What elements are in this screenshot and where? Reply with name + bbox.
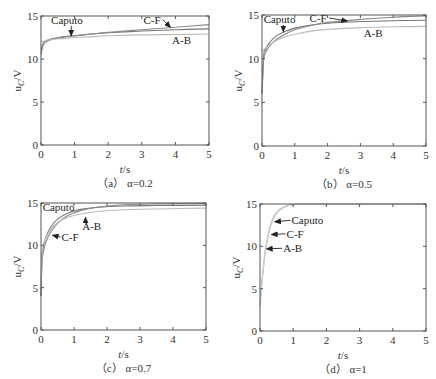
x-tick-label: 5 [206, 148, 212, 160]
x-tick-label: 3 [358, 149, 364, 161]
y-axis-title: uC/V [11, 256, 26, 278]
x-axis-title: t/s [338, 349, 348, 361]
y-tick-label: 15 [27, 10, 39, 22]
annotation-arrow-icon [163, 20, 170, 27]
plot-frame [41, 203, 206, 330]
subplot-caption: （b） α=0.5 [316, 178, 372, 190]
x-tick-label: 3 [357, 334, 363, 346]
x-tick-label: 2 [104, 333, 110, 345]
x-axis-title: t/s [120, 163, 130, 175]
series-ab-line [260, 204, 426, 306]
x-tick-label: 0 [259, 149, 265, 161]
x-tick-label: 1 [71, 333, 77, 345]
y-tick-label: 0 [33, 324, 39, 336]
annotation-caputo: Caputo [43, 201, 75, 213]
annotation-arrow-icon [329, 18, 347, 21]
x-tick-label: 5 [423, 334, 429, 346]
x-tick-label: 2 [325, 149, 331, 161]
series-ab-line [41, 208, 206, 279]
annotation-ab: A-B [364, 27, 383, 39]
x-tick-label: 5 [203, 333, 209, 345]
x-tick-label: 0 [257, 334, 263, 346]
x-tick-label: 1 [72, 148, 78, 160]
y-tick-label: 5 [33, 282, 39, 294]
y-tick-label: 0 [33, 139, 39, 151]
series-cf-line [41, 203, 206, 296]
y-axis-title: uC/V [11, 70, 26, 92]
x-tick-label: 0 [38, 333, 44, 345]
plot-frame [262, 15, 426, 146]
x-axis-title: t/s [118, 348, 128, 360]
annotation-ab: A-B [172, 34, 191, 46]
annotation-cf: C-F [287, 228, 304, 240]
y-tick-label: 10 [248, 53, 260, 65]
series-caputo-line [262, 20, 426, 93]
annotation-arrow-icon [53, 235, 61, 237]
y-axis-title: uC/V [232, 70, 247, 92]
x-tick-label: 1 [292, 149, 298, 161]
y-tick-label: 15 [248, 9, 260, 21]
x-tick-label: 1 [290, 334, 296, 346]
y-tick-label: 0 [254, 140, 260, 152]
y-tick-label: 15 [246, 198, 258, 210]
annotation-arrow-icon [272, 234, 286, 235]
x-axis-title: t/s [339, 164, 349, 176]
subplot-caption: （d） α=1 [319, 363, 367, 375]
annotation-ab: A-B [82, 220, 101, 232]
series-ab-line [262, 26, 426, 51]
y-tick-label: 5 [33, 96, 39, 108]
x-tick-label: 3 [137, 333, 143, 345]
x-tick-label: 4 [390, 149, 396, 161]
subplot-caption: （a） α=0.2 [97, 177, 152, 189]
subplot-caption: （c） α=0.7 [96, 362, 152, 374]
y-tick-label: 5 [254, 96, 260, 108]
annotation-cf: C-F [143, 14, 160, 26]
annotation-caputo: Caputo [51, 14, 83, 26]
plot-frame [260, 204, 426, 331]
x-tick-label: 3 [139, 148, 145, 160]
annotation-caputo: Caputo [292, 214, 324, 226]
series-cf-line [260, 204, 426, 306]
x-tick-label: 4 [390, 334, 396, 346]
annotation-caputo: Caputo [264, 13, 296, 25]
subplot-d: 012345051015t/suC/V（d） α=1CaputoC-FA-B [230, 198, 429, 375]
y-tick-label: 0 [252, 325, 258, 337]
x-tick-label: 5 [423, 149, 429, 161]
y-tick-label: 10 [246, 240, 258, 252]
annotation-arrow-icon [267, 248, 283, 249]
figure-canvas: 012345051015t/suC/V（a） α=0.2CaputoC-FA-B… [0, 0, 436, 379]
x-tick-label: 2 [105, 148, 111, 160]
annotation-cf: C-F [310, 12, 327, 24]
x-tick-label: 2 [324, 334, 330, 346]
series-caputo-line [41, 205, 206, 296]
subplot-b: 012345051015t/suC/V（b） α=0.5CaputoC-FA-B [232, 9, 429, 190]
x-tick-label: 0 [38, 148, 44, 160]
series-cf-line [262, 16, 426, 94]
y-tick-label: 15 [27, 197, 39, 209]
annotation-arrow-icon [275, 220, 291, 221]
x-tick-label: 4 [173, 148, 179, 160]
y-tick-label: 10 [27, 53, 39, 65]
series-caputo-line [260, 204, 426, 306]
subplot-c: 012345051015t/suC/V（c） α=0.7CaputoC-FA-B [11, 197, 209, 374]
y-tick-label: 5 [252, 283, 258, 295]
annotation-cf: C-F [61, 231, 78, 243]
x-tick-label: 4 [170, 333, 176, 345]
annotation-ab: A-B [283, 242, 302, 254]
subplot-a: 012345051015t/suC/V（a） α=0.2CaputoC-FA-B [11, 10, 212, 189]
y-tick-label: 10 [27, 239, 39, 251]
y-axis-title: uC/V [230, 257, 245, 279]
